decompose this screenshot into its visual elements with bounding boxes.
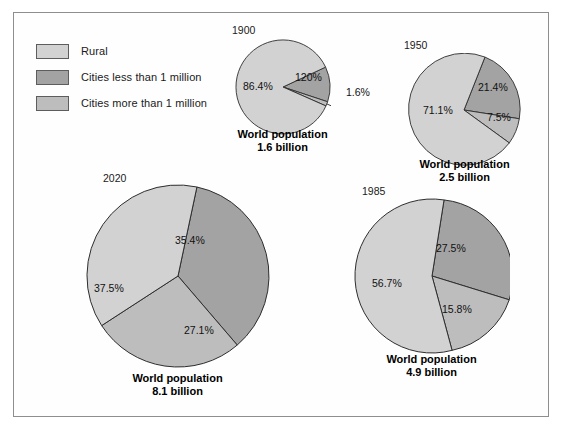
pie-label-1985-cities-gt-1m: 15.8%	[442, 303, 472, 315]
pie-label-1950-cities-lt-1m: 21.4%	[478, 81, 508, 93]
legend-swatch-cities-less-than-1-million	[36, 70, 69, 85]
legend-label-rural: Rural	[81, 45, 108, 57]
legend-item-cities-less-than-1-million: Cities less than 1 million	[36, 66, 226, 88]
pie-svg-2020	[86, 184, 270, 372]
pie-year-2020: 2020	[103, 172, 126, 184]
legend-item-cities-more-than-1-million: Cities more than 1 million	[36, 92, 226, 114]
pie-chart-1985: 1985 56.7% 27.5% 15.8% World population …	[350, 185, 550, 380]
pie-year-1985: 1985	[362, 185, 385, 197]
pie-label-1950-rural: 71.1%	[423, 104, 453, 116]
legend-swatch-cities-more-than-1-million	[36, 96, 69, 111]
pie-caption-1900-line1: World population	[215, 128, 350, 141]
pie-chart-2020: 2020 37.5% 35.4% 27.1% World population …	[86, 172, 316, 387]
leader-line-1900	[327, 104, 331, 111]
pie-label-1900-rural: 86.4%	[243, 80, 273, 92]
pie-caption-2020-line2: 8.1 billion	[110, 385, 245, 398]
legend-swatch-rural	[36, 44, 69, 59]
pie-caption-1985: World population 4.9 billion	[364, 353, 499, 379]
legend: Rural Cities less than 1 million Cities …	[36, 40, 226, 118]
pie-year-1950: 1950	[404, 39, 427, 51]
pie-label-2020-cities-gt-1m: 27.1%	[184, 324, 214, 336]
pie-chart-1900: 1900 86.4% 120% 1.6% World population 1.…	[218, 24, 368, 149]
pie-caption-1900-line2: 1.6 billion	[215, 141, 350, 154]
legend-label-cities-less-than-1-million: Cities less than 1 million	[81, 71, 202, 83]
pie-label-1985-cities-lt-1m: 27.5%	[436, 242, 466, 254]
pie-label-2020-cities-lt-1m: 35.4%	[175, 234, 205, 246]
pie-caption-2020-line1: World population	[110, 372, 245, 385]
pie-caption-1900: World population 1.6 billion	[215, 128, 350, 154]
legend-label-cities-more-than-1-million: Cities more than 1 million	[81, 97, 207, 109]
page-text-cutoff	[16, 424, 436, 434]
pie-label-1900-cities-lt-1m: 120%	[295, 71, 322, 83]
pie-label-1900-cities-gt-1m: 1.6%	[346, 86, 370, 98]
pie-caption-1950-line2: 2.5 billion	[397, 171, 532, 184]
pie-label-2020-rural: 37.5%	[94, 282, 124, 294]
pie-caption-1985-line1: World population	[364, 353, 499, 366]
pie-caption-2020: World population 8.1 billion	[110, 372, 245, 398]
pie-label-1985-rural: 56.7%	[372, 277, 402, 289]
figure-root: Rural Cities less than 1 million Cities …	[0, 0, 563, 434]
pie-caption-1985-line2: 4.9 billion	[364, 366, 499, 379]
pie-svg-2020-graphic	[86, 184, 270, 368]
pie-caption-1950: World population 2.5 billion	[397, 158, 532, 184]
pie-svg-1985-graphic	[354, 198, 510, 354]
pie-chart-1950: 1950 71.1% 21.4% 7.5% World population 2…	[393, 39, 553, 179]
pie-caption-1950-line1: World population	[397, 158, 532, 171]
pie-year-1900: 1900	[232, 24, 255, 36]
legend-item-rural: Rural	[36, 40, 226, 62]
pie-label-1950-cities-gt-1m: 7.5%	[487, 111, 511, 123]
